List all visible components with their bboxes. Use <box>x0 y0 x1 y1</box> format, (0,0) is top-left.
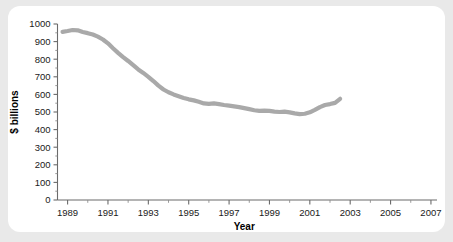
y-axis: 01002003004005006007008009001000 $ billi… <box>9 18 58 205</box>
y-tick-label: 1000 <box>29 18 50 29</box>
x-tick-label: 2005 <box>380 207 401 218</box>
x-axis-ticks <box>68 200 431 205</box>
x-tick-label: 2001 <box>299 207 320 218</box>
x-tick-label: 1989 <box>57 207 78 218</box>
x-tick-label: 1993 <box>138 207 159 218</box>
y-tick-label: 200 <box>35 159 51 170</box>
line-chart: 01002003004005006007008009001000 $ billi… <box>0 0 453 242</box>
y-tick-label: 100 <box>35 177 51 188</box>
y-tick-label: 300 <box>35 142 51 153</box>
x-axis: 1989199119931995199719992001200320052007… <box>57 200 441 232</box>
y-tick-label: 700 <box>35 71 51 82</box>
data-series-line <box>63 30 341 114</box>
x-axis-tick-labels: 1989199119931995199719992001200320052007 <box>57 207 441 218</box>
x-tick-label: 1997 <box>219 207 240 218</box>
y-tick-label: 500 <box>35 106 51 117</box>
x-tick-label: 1999 <box>259 207 280 218</box>
y-tick-label: 800 <box>35 54 51 65</box>
y-axis-ticks <box>54 24 58 200</box>
x-tick-label: 2003 <box>340 207 361 218</box>
y-tick-label: 600 <box>35 89 51 100</box>
x-tick-label: 1995 <box>178 207 199 218</box>
y-tick-label: 400 <box>35 124 51 135</box>
x-axis-title: Year <box>234 221 255 232</box>
y-axis-title: $ billions <box>9 90 20 134</box>
y-tick-label: 0 <box>45 194 50 205</box>
chart-figure: 01002003004005006007008009001000 $ billi… <box>0 0 453 242</box>
y-tick-label: 900 <box>35 36 51 47</box>
y-axis-tick-labels: 01002003004005006007008009001000 <box>29 18 50 205</box>
x-tick-label: 1991 <box>97 207 118 218</box>
x-tick-label: 2007 <box>420 207 441 218</box>
